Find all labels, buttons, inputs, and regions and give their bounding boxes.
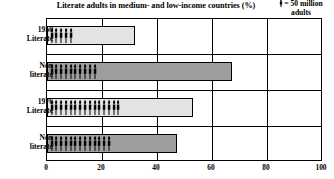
person-figure-icon bbox=[78, 136, 82, 151]
person-figure-icon bbox=[93, 136, 97, 151]
person-figure-icon bbox=[54, 136, 58, 151]
bar-1976-nonliterate[interactable] bbox=[47, 134, 177, 153]
person-figure-icon bbox=[69, 64, 73, 79]
person-figure-icon bbox=[64, 100, 68, 115]
ylabel-category-literate: Literate bbox=[7, 34, 53, 43]
person-figure-icon bbox=[83, 136, 87, 151]
ylabel-1950-literate: 1950 Literate bbox=[7, 25, 53, 43]
person-figure-icon bbox=[59, 64, 63, 79]
person-figure-icon bbox=[116, 100, 120, 115]
legend: = 50 million adults bbox=[268, 0, 334, 17]
person-figure-icon bbox=[88, 64, 92, 79]
ylabel-category-literate-2: Literate bbox=[7, 106, 53, 115]
person-figure-icon bbox=[73, 64, 77, 79]
row-separator-1 bbox=[47, 54, 321, 55]
person-figure-icon bbox=[73, 100, 77, 115]
chart-title: Literate adults in medium- and low-incom… bbox=[46, 1, 266, 11]
xtick-0: 0 bbox=[33, 163, 59, 172]
figure-group-1976-nonliterate bbox=[49, 136, 111, 151]
person-figure-icon bbox=[88, 100, 92, 115]
person-figure-icon bbox=[88, 136, 92, 151]
person-figure-icon bbox=[93, 100, 97, 115]
ylabel-literate: literate bbox=[7, 70, 53, 79]
person-figure-icon bbox=[64, 28, 68, 43]
person-figure-icon bbox=[69, 136, 73, 151]
ylabel-year-1976: 1976 bbox=[7, 97, 53, 106]
row-separator-2 bbox=[47, 90, 321, 91]
person-figure-icon bbox=[102, 100, 106, 115]
person-figure-icon bbox=[54, 28, 58, 43]
ylabel-non-2: Non bbox=[7, 133, 53, 142]
xtick-100: 100 bbox=[308, 163, 334, 172]
person-figure-icon bbox=[97, 136, 101, 151]
xtick-80: 80 bbox=[253, 163, 279, 172]
person-figure-icon bbox=[279, 0, 283, 7]
chart-container: Literate adults in medium- and low-incom… bbox=[0, 0, 334, 179]
bar-1976-literate[interactable] bbox=[47, 98, 193, 117]
person-figure-icon bbox=[64, 64, 68, 79]
figure-group-1976-literate bbox=[49, 100, 121, 115]
person-figure-icon bbox=[112, 100, 116, 115]
person-figure-icon bbox=[59, 28, 63, 43]
person-figure-icon bbox=[78, 64, 82, 79]
person-figure-icon bbox=[107, 136, 111, 151]
bar-1950-nonliterate[interactable] bbox=[47, 62, 232, 81]
xtick-40: 40 bbox=[143, 163, 169, 172]
ylabel-non: Non bbox=[7, 61, 53, 70]
person-figure-icon bbox=[59, 136, 63, 151]
ylabel-year-1950: 1950 bbox=[7, 25, 53, 34]
legend-text-2: adults bbox=[268, 9, 334, 18]
ylabel-1976-nonliterate: Non literate bbox=[7, 133, 53, 151]
xtick-20: 20 bbox=[88, 163, 114, 172]
bar-1950-literate[interactable] bbox=[47, 26, 135, 45]
person-figure-icon bbox=[73, 136, 77, 151]
person-figure-icon bbox=[54, 64, 58, 79]
legend-text-1: = 50 million bbox=[284, 0, 323, 8]
person-figure-icon bbox=[54, 100, 58, 115]
ylabel-1976-literate: 1976 Literate bbox=[7, 97, 53, 115]
figure-group-1950-nonliterate bbox=[49, 64, 97, 79]
ylabel-literate-2: literate bbox=[7, 142, 53, 151]
person-figure-icon bbox=[97, 100, 101, 115]
person-figure-icon bbox=[102, 136, 106, 151]
plot-area bbox=[46, 18, 322, 161]
person-figure-icon bbox=[83, 100, 87, 115]
person-figure-icon bbox=[107, 100, 111, 115]
xtick-60: 60 bbox=[198, 163, 224, 172]
person-figure-icon bbox=[93, 64, 97, 79]
ylabel-1950-nonliterate: Non literate bbox=[7, 61, 53, 79]
person-figure-icon bbox=[83, 64, 87, 79]
row-separator-3 bbox=[47, 126, 321, 127]
person-figure-icon bbox=[78, 100, 82, 115]
person-figure-icon bbox=[59, 100, 63, 115]
person-figure-icon bbox=[64, 136, 68, 151]
person-figure-icon bbox=[69, 28, 73, 43]
person-figure-icon bbox=[69, 100, 73, 115]
